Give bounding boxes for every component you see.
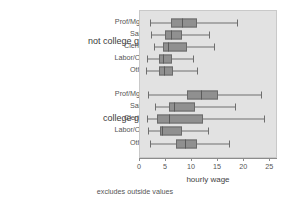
- x-axis-title: hourly wage: [139, 175, 277, 184]
- median-line: [162, 127, 163, 136]
- whisker-left: [147, 119, 156, 120]
- whisker-cap-high: [193, 56, 194, 63]
- whisker-right: [187, 47, 214, 48]
- box-iqr: [169, 103, 195, 112]
- whisker-left: [155, 107, 169, 108]
- median-line: [171, 31, 172, 40]
- whisker-cap-high: [229, 141, 230, 148]
- x-tick-label: 15: [213, 162, 221, 171]
- whisker-right: [172, 59, 193, 60]
- whisker-left: [150, 144, 176, 145]
- box-iqr: [165, 31, 182, 40]
- plot-area: [139, 10, 277, 158]
- whisker-cap-high: [214, 44, 215, 51]
- whisker-left: [151, 35, 165, 36]
- whisker-left: [148, 131, 160, 132]
- whisker-left: [147, 59, 159, 60]
- whisker-cap-high: [208, 128, 209, 135]
- whisker-cap-high: [237, 20, 238, 27]
- whisker-cap-low: [154, 44, 155, 51]
- box-iqr: [171, 19, 197, 28]
- chart-root: not college grad college grad Prof/MgmtS…: [0, 0, 289, 199]
- median-line: [164, 67, 165, 76]
- whisker-right: [218, 95, 262, 96]
- whisker-left: [146, 71, 159, 72]
- median-line: [169, 115, 170, 124]
- x-tick-label: 10: [187, 162, 195, 171]
- x-tick-label: 5: [163, 162, 167, 171]
- box-iqr: [187, 91, 218, 100]
- box-iqr: [163, 43, 187, 52]
- box-plot-row: [140, 64, 276, 78]
- box-iqr: [176, 140, 197, 149]
- median-line: [185, 140, 186, 149]
- whisker-left: [150, 23, 171, 24]
- x-tick: [217, 158, 218, 161]
- whisker-cap-low: [147, 56, 148, 63]
- whisker-right: [182, 131, 209, 132]
- x-tick: [269, 158, 270, 161]
- whisker-cap-low: [155, 104, 156, 111]
- whisker-right: [197, 144, 228, 145]
- whisker-cap-high: [235, 104, 236, 111]
- whisker-cap-low: [150, 20, 151, 27]
- whisker-cap-high: [261, 92, 262, 99]
- whisker-cap-low: [150, 141, 151, 148]
- whisker-right: [182, 35, 209, 36]
- whisker-cap-high: [209, 32, 210, 39]
- median-line: [163, 55, 164, 64]
- x-tick: [139, 158, 140, 161]
- whisker-right: [197, 23, 237, 24]
- whisker-cap-low: [148, 128, 149, 135]
- whisker-left: [154, 47, 163, 48]
- median-line: [201, 91, 202, 100]
- whisker-cap-high: [264, 116, 265, 123]
- whisker-cap-low: [151, 32, 152, 39]
- x-tick-label: 25: [265, 162, 273, 171]
- box-iqr: [159, 67, 173, 76]
- whisker-right: [195, 107, 236, 108]
- box-iqr: [159, 55, 171, 64]
- box-plot-row: [140, 124, 276, 138]
- median-line: [174, 103, 175, 112]
- box-iqr: [157, 115, 203, 124]
- x-tick-label: 20: [239, 162, 247, 171]
- whisker-right: [173, 71, 197, 72]
- whisker-right: [203, 119, 264, 120]
- median-line: [168, 43, 169, 52]
- x-tick: [243, 158, 244, 161]
- x-tick: [191, 158, 192, 161]
- x-axis-line: [139, 158, 277, 159]
- whisker-cap-low: [148, 92, 149, 99]
- whisker-cap-low: [147, 116, 148, 123]
- median-line: [182, 19, 183, 28]
- box-plot-row: [140, 137, 276, 151]
- whisker-cap-low: [146, 68, 147, 75]
- whisker-left: [148, 95, 187, 96]
- x-tick-label: 0: [137, 162, 141, 171]
- whisker-cap-high: [197, 68, 198, 75]
- chart-note: excludes outside values: [0, 187, 270, 196]
- x-tick: [165, 158, 166, 161]
